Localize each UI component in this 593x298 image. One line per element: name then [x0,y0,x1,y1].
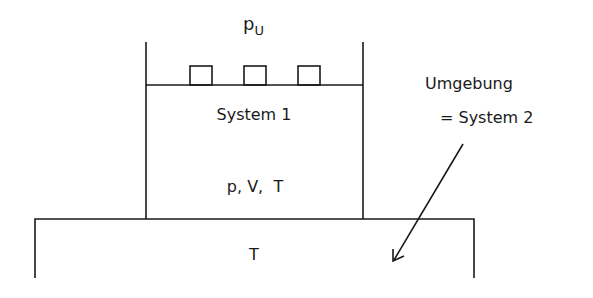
surroundings-label-line1: Umgebung [425,74,513,93]
state-variables-label: p, V, T [227,177,284,196]
weight-3 [298,66,320,85]
weight-2 [244,66,266,85]
ambient-pressure-label: pU [243,13,264,38]
diagram-canvas: pU System 1 p, V, T T Umgebung = System … [0,0,593,298]
reservoir-temperature-label: T [248,245,259,264]
system1-label: System 1 [217,105,292,124]
weight-1 [190,66,212,85]
surroundings-arrow [394,144,463,260]
surroundings-label-line2: = System 2 [440,108,533,127]
